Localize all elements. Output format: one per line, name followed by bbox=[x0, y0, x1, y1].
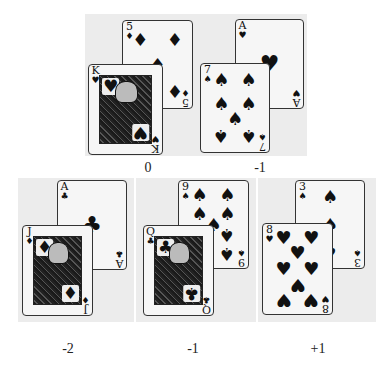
diamond-icon: ♦ bbox=[62, 285, 79, 302]
spade-icon: ♠ bbox=[213, 127, 229, 145]
spade-icon: ♠ bbox=[219, 245, 235, 263]
diamond-icon: ♦ bbox=[167, 31, 183, 49]
spade-icon: ♠ bbox=[219, 205, 235, 223]
diamond-icon: ♦ bbox=[132, 31, 148, 49]
spade-icon: ♠ bbox=[322, 188, 338, 206]
hand-score-label: +1 bbox=[311, 341, 326, 357]
king-face-artwork: ♥ ♥ bbox=[99, 75, 152, 144]
card-seven-of-spades: 7♠ ♠ ♠ ♠ ♠ ♠ ♠ ♠ 7♠ bbox=[200, 63, 270, 153]
hand-score-label: -1 bbox=[254, 160, 266, 176]
card-queen-of-clubs: Q♣ ♣ ♣ Q♣ bbox=[143, 225, 214, 316]
card-index-top: A♣ bbox=[60, 182, 69, 201]
card-king-of-hearts: K♥ ♥ ♥ K♥ bbox=[88, 64, 163, 155]
hand-score-label: -1 bbox=[187, 341, 199, 357]
hand-score-label: 0 bbox=[145, 160, 152, 176]
jack-portrait bbox=[48, 242, 69, 264]
spade-icon: ♠ bbox=[192, 186, 208, 204]
card-index-bottom: 9♠ bbox=[237, 248, 246, 267]
spade-icon: ♠ bbox=[241, 127, 257, 145]
heart-icon: ♥ bbox=[303, 291, 319, 309]
card-index-top: 9♠ bbox=[181, 182, 190, 201]
card-index-bottom: A♥ bbox=[292, 88, 301, 107]
queen-portrait bbox=[169, 242, 190, 264]
card-index-top: 8♥ bbox=[265, 225, 274, 244]
card-index-bottom: 5♦ bbox=[181, 88, 190, 107]
card-index-bottom: J♦ bbox=[81, 295, 90, 314]
card-index-top: 7♠ bbox=[203, 65, 212, 84]
card-index-bottom: 8♥ bbox=[321, 294, 330, 313]
spade-icon: ♠ bbox=[227, 110, 243, 128]
spade-icon: ♠ bbox=[213, 71, 229, 89]
heart-icon: ♥ bbox=[276, 291, 292, 309]
spade-icon: ♠ bbox=[219, 186, 235, 204]
spade-icon: ♠ bbox=[241, 71, 257, 89]
queen-face-artwork: ♣ ♣ bbox=[154, 236, 203, 305]
card-eight-of-hearts: 8♥ ♥ ♥ ♥ ♥ ♥ ♥ ♥ ♥ 8♥ bbox=[262, 223, 333, 315]
king-portrait bbox=[115, 81, 137, 103]
card-index-top: A♥ bbox=[238, 21, 247, 40]
card-index-bottom: Q♣ bbox=[202, 295, 211, 314]
card-index-top: 3♠ bbox=[298, 182, 307, 201]
heart-icon: ♥ bbox=[132, 124, 149, 141]
spade-icon: ♠ bbox=[219, 226, 235, 244]
card-jack-of-diamonds: J♦ ♦ ♦ J♦ bbox=[22, 225, 93, 316]
card-index-bottom: A♣ bbox=[115, 249, 124, 268]
card-index-bottom: 3♠ bbox=[353, 248, 362, 267]
jack-face-artwork: ♦ ♦ bbox=[33, 236, 82, 305]
card-index-bottom: 7♠ bbox=[258, 132, 267, 151]
heart-icon: ♥ bbox=[303, 229, 319, 247]
club-icon: ♣ bbox=[183, 285, 200, 302]
card-index-bottom: K♥ bbox=[151, 134, 160, 153]
hand-score-label: -2 bbox=[62, 341, 74, 357]
